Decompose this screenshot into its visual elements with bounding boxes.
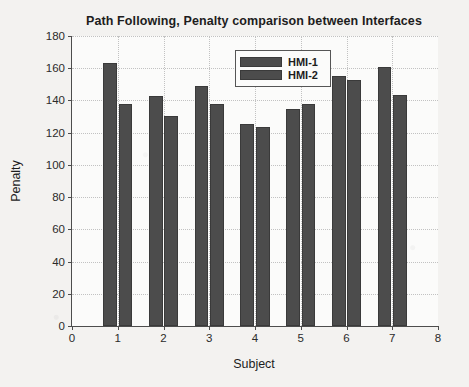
y-tick-mark [68,68,72,69]
y-tick-label: 160 [46,62,65,74]
y-tick-label: 100 [46,159,65,171]
x-tick-label: 3 [206,332,212,344]
bar-hmi-1-subject-3 [195,86,209,326]
x-tick-label: 8 [435,332,441,344]
y-tick-label: 80 [52,191,65,203]
x-tick-mark [392,326,393,330]
x-tick-mark [72,326,73,330]
x-tick-mark [209,326,210,330]
bar-hmi-1-subject-6 [332,76,346,326]
y-tick-mark [68,294,72,295]
bar-hmi-1-subject-5 [286,109,300,326]
bar-hmi-1-subject-2 [149,96,163,326]
y-tick-mark [68,133,72,134]
x-tick-label: 0 [69,332,75,344]
x-tick-label: 2 [160,332,166,344]
y-axis-label: Penalty [9,160,23,202]
y-tick-mark [68,36,72,37]
y-tick-label: 20 [52,288,65,300]
legend-label-hmi-1: HMI-1 [288,56,318,68]
y-tick-mark [68,262,72,263]
bar-hmi-2-subject-4 [256,127,270,326]
x-tick-mark [301,326,302,330]
bar-hmi-2-subject-1 [119,104,133,326]
legend-item-hmi-2: HMI-2 [240,69,326,81]
legend-label-hmi-2: HMI-2 [288,69,318,81]
x-tick-label: 4 [252,332,258,344]
legend-swatch-hmi-1 [240,57,282,67]
x-axis-label: Subject [71,357,437,371]
bar-hmi-2-subject-2 [164,116,178,326]
x-tick-label: 7 [389,332,395,344]
y-tick-label: 120 [46,127,65,139]
x-tick-mark [255,326,256,330]
y-tick-label: 0 [59,320,65,332]
x-tick-label: 1 [115,332,121,344]
y-tick-label: 140 [46,94,65,106]
y-tick-label: 180 [46,30,65,42]
legend-swatch-hmi-2 [240,70,282,80]
x-tick-mark [347,326,348,330]
y-tick-label: 60 [52,223,65,235]
x-tick-mark [164,326,165,330]
x-tick-mark [438,326,439,330]
bar-hmi-1-subject-7 [378,67,392,326]
bar-hmi-2-subject-6 [347,80,361,327]
bar-hmi-1-subject-4 [240,124,254,326]
y-tick-mark [68,100,72,101]
legend-item-hmi-1: HMI-1 [240,56,326,68]
x-tick-mark [118,326,119,330]
y-tick-mark [68,229,72,230]
bar-hmi-1-subject-1 [103,63,117,326]
y-tick-mark [68,197,72,198]
chart-title: Path Following, Penalty comparison betwe… [71,14,437,28]
bar-hmi-2-subject-5 [302,104,316,326]
chart-legend: HMI-1HMI-2 [235,50,331,87]
bar-hmi-2-subject-3 [210,104,224,326]
x-tick-label: 6 [343,332,349,344]
y-tick-label: 40 [52,256,65,268]
bar-hmi-2-subject-7 [393,95,407,326]
x-tick-label: 5 [298,332,304,344]
y-tick-mark [68,165,72,166]
chart-figure: Path Following, Penalty comparison betwe… [0,0,469,387]
